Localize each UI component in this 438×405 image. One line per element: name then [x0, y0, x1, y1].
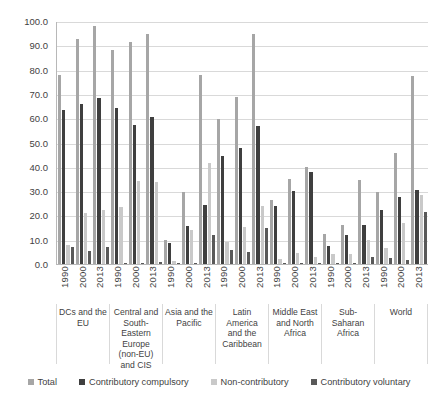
bar [323, 234, 326, 264]
bar [384, 248, 387, 264]
x-axis-region-label: Central and South-Eastern Europe (non-EU… [109, 304, 162, 364]
bar [239, 148, 242, 264]
x-axis-region-label: World [374, 304, 428, 364]
bar-group [163, 22, 216, 264]
bar [97, 98, 100, 264]
year-cluster [269, 22, 287, 264]
bar [203, 205, 206, 264]
x-axis-year-label: 1990 [322, 266, 340, 304]
y-axis-tick-label: 100.0 [0, 17, 48, 27]
bar [402, 223, 405, 264]
bar [270, 200, 273, 264]
year-axis-group: 199020002013 [322, 266, 375, 304]
bar [164, 240, 167, 264]
bar [199, 75, 202, 264]
bar [124, 263, 127, 264]
legend-item[interactable]: Non-contributory [211, 377, 289, 387]
bar [102, 210, 105, 264]
bar [380, 210, 383, 264]
bar [243, 227, 246, 264]
legend-swatch-icon [311, 379, 317, 385]
bar [283, 263, 286, 264]
x-axis-region-label: Sub-Saharan Africa [321, 304, 374, 364]
x-axis-year-label: 2000 [180, 266, 198, 304]
legend-swatch-icon [28, 379, 34, 385]
bar [261, 206, 264, 264]
bar [88, 251, 91, 264]
x-axis-year-label: 2000 [339, 266, 357, 304]
bar [274, 206, 277, 264]
bar-group [322, 22, 375, 264]
bar [367, 240, 370, 264]
bar [150, 117, 153, 264]
year-axis-group: 199020002013 [269, 266, 322, 304]
bar-group [375, 22, 428, 264]
year-cluster [375, 22, 393, 264]
bar [300, 263, 303, 264]
bar [358, 180, 361, 264]
x-axis-year-label: 1990 [215, 266, 233, 304]
region-axis: DCs and the EUCentral and South-Eastern … [56, 304, 428, 364]
legend-item[interactable]: Total [28, 377, 57, 387]
year-cluster [322, 22, 340, 264]
bar [133, 125, 136, 264]
bar [415, 190, 418, 264]
bar [217, 119, 220, 264]
year-cluster [145, 22, 163, 264]
legend-label: Contributory voluntary [321, 377, 411, 387]
bar [66, 245, 69, 264]
year-axis-group: 199020002013 [109, 266, 162, 304]
bar [376, 192, 379, 264]
bar [327, 246, 330, 264]
bar-groups [57, 22, 428, 264]
legend-item[interactable]: Contributory voluntary [311, 377, 411, 387]
year-cluster [128, 22, 146, 264]
bar [190, 230, 193, 264]
year-axis: 1990200020131990200020131990200020131990… [56, 266, 428, 304]
year-cluster [92, 22, 110, 264]
bar [309, 172, 312, 264]
bar [141, 263, 144, 264]
bar [353, 263, 356, 264]
bar [247, 252, 250, 264]
x-axis-year-label: 2000 [74, 266, 92, 304]
x-axis-year-label: 2013 [251, 266, 269, 304]
x-axis-region-label: Asia and the Pacific [162, 304, 215, 364]
bar [256, 126, 259, 264]
bar [420, 195, 423, 264]
bar [394, 153, 397, 264]
bar [389, 258, 392, 264]
bar [212, 235, 215, 264]
y-axis-tick-label: 30.0 [0, 187, 48, 197]
legend-label: Total [38, 377, 57, 387]
year-axis-group: 199020002013 [215, 266, 268, 304]
bar [119, 207, 122, 264]
bar [230, 250, 233, 264]
legend-item[interactable]: Contributory compulsory [79, 377, 189, 387]
year-cluster [110, 22, 128, 264]
x-axis-region-label: Middle East and North Africa [268, 304, 321, 364]
bar [115, 108, 118, 264]
x-axis-year-label: 2013 [91, 266, 109, 304]
bar [182, 192, 185, 264]
y-axis-tick-label: 90.0 [0, 41, 48, 51]
year-axis-group: 199020002013 [56, 266, 109, 304]
bar [252, 34, 255, 264]
bar [159, 262, 162, 264]
x-axis-year-label: 2013 [304, 266, 322, 304]
bar [331, 254, 334, 264]
bar [76, 39, 79, 264]
bar [349, 254, 352, 264]
x-axis-year-label: 2013 [198, 266, 216, 304]
year-cluster [340, 22, 358, 264]
bar [106, 247, 109, 264]
legend-swatch-icon [79, 379, 85, 385]
x-axis-year-label: 1990 [109, 266, 127, 304]
bar [406, 260, 409, 264]
year-cluster [75, 22, 93, 264]
bar [314, 257, 317, 264]
bar-group [110, 22, 163, 264]
bar [62, 110, 65, 264]
year-cluster [410, 22, 428, 264]
year-cluster [216, 22, 234, 264]
